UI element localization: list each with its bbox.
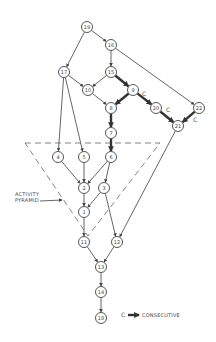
- edge-17-to-4: [58, 78, 63, 152]
- edge-10-to-8: [92, 93, 106, 104]
- node-label: 14: [98, 289, 104, 295]
- node-21: 21: [173, 121, 184, 132]
- node-13: 13: [96, 262, 107, 273]
- node-16: 16: [106, 40, 117, 51]
- edges: [58, 30, 194, 312]
- consecutive-label: C: [193, 116, 197, 123]
- consecutive-label: C: [166, 106, 170, 113]
- node-2: 2: [79, 183, 90, 194]
- node-label: 18: [98, 315, 104, 321]
- node-label: 21: [175, 123, 181, 129]
- edge-15-to-9: [115, 76, 128, 87]
- node-label: 19: [84, 24, 90, 30]
- consecutive-label: C: [142, 90, 146, 97]
- edge-17-to-10: [68, 75, 83, 86]
- legend-label: CONSECUTIVE: [142, 312, 180, 318]
- legend-symbol: C: [121, 311, 125, 318]
- node-label: 6: [109, 154, 112, 160]
- node-label: 5: [82, 154, 85, 160]
- edge-20-to-21: [160, 112, 173, 123]
- node-label: 8: [109, 105, 112, 111]
- edge-19-to-16: [91, 30, 106, 41]
- node-label: 22: [196, 105, 202, 111]
- node-label: 15: [108, 69, 114, 75]
- edge-12-to-13: [104, 247, 114, 262]
- node-label: 12: [114, 239, 120, 245]
- pyramid-label: ACTIVITY PYRAMID: [15, 191, 62, 203]
- pyramid-outline: [25, 143, 160, 236]
- node-12: 12: [112, 237, 123, 248]
- node-label: 9: [131, 87, 134, 93]
- node-label: 16: [108, 42, 114, 48]
- node-label: 17: [61, 69, 67, 75]
- node-label: 20: [153, 105, 159, 111]
- node-18: 18: [96, 313, 107, 324]
- edge-6-to-2: [88, 161, 108, 183]
- node-9: 9: [128, 85, 139, 96]
- node-4: 4: [53, 152, 64, 163]
- node-label: 10: [85, 87, 91, 93]
- node-label: 3: [102, 185, 105, 191]
- node-15: 15: [106, 67, 117, 78]
- node-7: 7: [106, 128, 117, 139]
- edge-9-to-8: [116, 94, 129, 105]
- node-19: 19: [82, 22, 93, 33]
- node-22: 22: [194, 103, 205, 114]
- node-5: 5: [79, 152, 90, 163]
- node-10: 10: [83, 85, 94, 96]
- node-6: 6: [106, 152, 117, 163]
- edge-6-to-3: [105, 162, 110, 182]
- node-label: 11: [81, 239, 87, 245]
- edge-4-to-2: [62, 161, 81, 183]
- node-label: 7: [109, 130, 112, 136]
- edge-19-to-17: [67, 32, 85, 67]
- edge-3-to-1: [88, 192, 101, 207]
- pyramid-label-line2: PYRAMID: [15, 197, 39, 203]
- edge-11-to-13: [87, 247, 98, 263]
- pyramid-pointer-arrow: [40, 200, 62, 201]
- nodes: 19161715109820222174562311112131418: [53, 22, 205, 324]
- node-3: 3: [99, 183, 110, 194]
- edge-21-to-12: [120, 131, 176, 237]
- legend: C trl CONSECUTIVE: [121, 311, 180, 318]
- edge-3-to-12: [105, 193, 115, 236]
- activity-network-diagram: 19161715109820222174562311112131418 CCC …: [0, 0, 216, 342]
- node-1: 1: [79, 207, 90, 218]
- node-label: 1: [82, 209, 85, 215]
- edge-17-to-5: [65, 77, 82, 151]
- activity-pyramid: [25, 143, 160, 236]
- node-label: 2: [82, 185, 85, 191]
- node-label: 4: [56, 154, 59, 160]
- node-label: 13: [98, 264, 104, 270]
- edge-15-to-10: [93, 75, 107, 86]
- node-17: 17: [59, 67, 70, 78]
- node-20: 20: [151, 103, 162, 114]
- node-11: 11: [79, 237, 90, 248]
- node-8: 8: [106, 103, 117, 114]
- node-14: 14: [96, 287, 107, 298]
